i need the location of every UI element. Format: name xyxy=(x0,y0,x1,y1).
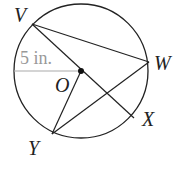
label-y: Y xyxy=(28,137,41,159)
measurement-label: 5 in. xyxy=(20,48,52,68)
label-v: V xyxy=(14,4,29,26)
center-point xyxy=(78,68,84,74)
label-w: W xyxy=(154,52,173,74)
chord-yw xyxy=(52,62,149,134)
label-x: X xyxy=(141,108,155,130)
circle-diagram: 5 in. V W X Y O xyxy=(0,0,173,169)
label-o: O xyxy=(55,74,69,96)
